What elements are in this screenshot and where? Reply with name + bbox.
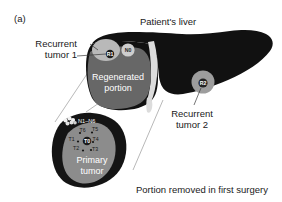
primary-tumor-label-line2: tumor <box>80 166 103 176</box>
tumor-sample-label: T2 <box>73 145 79 151</box>
connector-line-mid <box>86 103 99 112</box>
recurrent-tumor-2-callout-line2: tumor 2 <box>176 119 208 130</box>
removed-specimen-shape <box>52 113 127 188</box>
recurrent-tumor-2-callout-line1: Recurrent <box>171 108 213 119</box>
figure-container: R1 N0 R2 Regenerated portion <box>0 0 282 202</box>
regenerated-portion-label-line1: Regenerated <box>92 72 144 82</box>
lymph-node-dot <box>73 121 77 125</box>
recurrent-tumor-2-nodule: R2 <box>192 71 215 94</box>
node-0-marker: N0 <box>121 43 134 56</box>
recurrent-tumor-1-callout-line1: Recurrent <box>35 38 77 49</box>
panel-label: (a) <box>14 13 26 24</box>
tumor-sample-label: T3 <box>92 146 98 152</box>
node-0-label: N0 <box>125 47 132 53</box>
tumor-sample-label: T6 <box>79 127 85 133</box>
recurrent-tumor-1-mass <box>92 39 120 61</box>
primary-tumor-label-line1: Primary <box>77 155 108 165</box>
recurrent-tumor-2-marker-label: R2 <box>200 80 207 86</box>
tumor-sample-label: T5 <box>92 126 98 132</box>
tumor-sample-label: T4 <box>92 136 98 142</box>
recurrent-tumor-1-nodule: R1 <box>92 39 120 61</box>
lymph-node-dot <box>70 121 74 125</box>
tumor-sample-label: T1 <box>68 136 74 142</box>
regenerated-portion-label-line2: portion <box>104 83 132 93</box>
figure-caption: Portion removed in first surgery <box>136 184 268 195</box>
recurrent-tumor-1-marker-label: R1 <box>107 51 114 57</box>
liver-recurrence-diagram: R1 N0 R2 Regenerated portion <box>0 0 282 202</box>
tumor-sample-dot <box>82 149 84 151</box>
lymph-node-dot <box>66 122 70 126</box>
tumor-center-label: T0 <box>84 138 90 144</box>
recurrent-tumor-1-callout-line2: tumor 1 <box>45 49 77 60</box>
lymph-nodes-label: N1–N6 <box>78 118 95 124</box>
tumor-sample-dot <box>77 140 79 142</box>
tumor-center-marker: T0 <box>83 137 92 146</box>
figure-title: Patient's liver <box>140 16 196 27</box>
